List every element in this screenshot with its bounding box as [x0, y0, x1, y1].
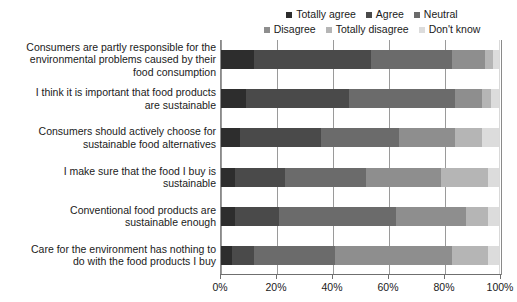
x-tick-label: 40%: [321, 281, 342, 293]
bar-segment: [488, 207, 499, 226]
x-tick-mark: [220, 275, 221, 279]
legend-swatch-disagree: [264, 27, 270, 33]
x-axis-line: [220, 274, 501, 275]
bar-segment: [285, 168, 366, 187]
bar-segment: [221, 89, 246, 108]
bar-segment: [235, 168, 285, 187]
stacked-bar: [221, 89, 499, 108]
x-tick-label: 100%: [487, 281, 514, 293]
category-label: Consumers should actively choose forsust…: [4, 125, 216, 150]
bar-segment: [466, 207, 488, 226]
bar-segment: [455, 128, 483, 147]
bar-segment: [221, 207, 235, 226]
legend-swatch-dont-know: [419, 27, 425, 33]
x-tick-label: 0%: [212, 281, 227, 293]
x-tick-label: 80%: [433, 281, 454, 293]
category-label-line: Consumers should actively choose for: [39, 125, 216, 137]
bar-segment: [452, 246, 488, 265]
bar-segment: [279, 207, 396, 226]
category-label: Conventional food products aresustainabl…: [4, 204, 216, 229]
x-tick-mark: [276, 275, 277, 279]
bar-segment: [482, 128, 499, 147]
bar-row: [221, 197, 499, 236]
bar-segment: [441, 168, 488, 187]
x-tick-label: 20%: [265, 281, 286, 293]
legend-swatch-totally-agree: [286, 12, 292, 18]
bar-segment: [232, 246, 254, 265]
bar-segment: [452, 50, 485, 69]
bar-segment: [399, 128, 455, 147]
bar-segment: [371, 50, 452, 69]
legend-label-totally-agree: Totally agree: [296, 9, 356, 20]
legend-row-top: Totally agree Agree Neutral: [232, 7, 512, 22]
bar-row: [221, 158, 499, 197]
category-label: I make sure that the food I buy issustai…: [4, 165, 216, 190]
category-label-line: environmental problems caused by their: [30, 53, 216, 65]
legend-label-dont-know: Don't know: [429, 24, 481, 35]
bar-segment: [254, 246, 335, 265]
category-label-line: Care for the environment has nothing to: [31, 243, 216, 255]
bar-segment: [221, 168, 235, 187]
bar-segment: [491, 89, 499, 108]
bar-segment: [396, 207, 466, 226]
category-label-line: are sustainable: [145, 99, 216, 111]
bar-segment: [335, 246, 452, 265]
category-label-line: Consumers are partly responsible for the: [26, 41, 216, 53]
category-label-line: food consumption: [133, 66, 216, 78]
category-label-line: sustainable: [163, 177, 216, 189]
bar-segment: [493, 50, 499, 69]
category-label: Care for the environment has nothing tod…: [4, 243, 216, 268]
chart-legend: Totally agree Agree Neutral Disagree Tot…: [232, 7, 512, 37]
legend-label-totally-disagree: Totally disagree: [336, 24, 409, 35]
legend-item-totally-agree: Totally agree: [286, 9, 356, 20]
bar-row: [221, 118, 499, 157]
category-label-line: do with the food products I buy: [73, 255, 216, 267]
x-tick-label: 60%: [377, 281, 398, 293]
category-label-line: I think it is important that food produc…: [36, 86, 216, 98]
legend-item-agree: Agree: [366, 9, 404, 20]
category-label-line: sustainable food alternatives: [83, 138, 216, 150]
bar-row: [221, 236, 499, 275]
legend-swatch-neutral: [414, 12, 420, 18]
legend-swatch-agree: [366, 12, 372, 18]
x-tick-mark: [388, 275, 389, 279]
bar-segment: [366, 168, 441, 187]
bar-row: [221, 40, 499, 79]
bar-row: [221, 79, 499, 118]
category-label: Consumers are partly responsible for the…: [4, 41, 216, 78]
legend-swatch-totally-disagree: [326, 27, 332, 33]
bar-segment: [321, 128, 399, 147]
bar-segment: [349, 89, 455, 108]
category-label-line: sustainable enough: [125, 216, 216, 228]
bar-segment: [455, 89, 483, 108]
x-tick-mark: [500, 275, 501, 279]
stacked-bar-chart: Totally agree Agree Neutral Disagree Tot…: [0, 0, 517, 302]
bar-segment: [485, 50, 493, 69]
category-axis-labels: Consumers are partly responsible for the…: [4, 40, 216, 275]
legend-label-neutral: Neutral: [424, 9, 458, 20]
stacked-bar: [221, 50, 499, 69]
legend-item-disagree: Disagree: [264, 24, 316, 35]
bar-segment: [221, 128, 240, 147]
bar-segment: [254, 50, 371, 69]
legend-item-dont-know: Don't know: [419, 24, 481, 35]
stacked-bar: [221, 246, 499, 265]
category-label-line: I make sure that the food I buy is: [64, 165, 216, 177]
bar-segment: [488, 246, 499, 265]
gridline-100: [501, 40, 502, 275]
legend-label-agree: Agree: [376, 9, 404, 20]
legend-label-disagree: Disagree: [274, 24, 316, 35]
bar-segment: [482, 89, 490, 108]
bar-segment: [235, 207, 279, 226]
legend-row-bottom: Disagree Totally disagree Don't know: [232, 22, 512, 37]
stacked-bar: [221, 168, 499, 187]
bar-segment: [221, 50, 254, 69]
x-tick-mark: [332, 275, 333, 279]
x-tick-mark: [444, 275, 445, 279]
stacked-bar: [221, 128, 499, 147]
bar-segment: [488, 168, 499, 187]
bar-segment: [246, 89, 349, 108]
category-label: I think it is important that food produc…: [4, 86, 216, 111]
legend-item-totally-disagree: Totally disagree: [326, 24, 409, 35]
category-label-line: Conventional food products are: [70, 204, 216, 216]
